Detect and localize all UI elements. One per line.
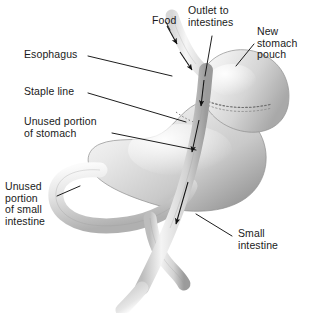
label-new-stomach-pouch: New stomach pouch — [257, 26, 297, 61]
label-unused-portion-of-stomach: Unused portion of stomach — [24, 116, 97, 139]
leader-small-intestine — [196, 214, 232, 236]
label-small-intestine: Small intestine — [238, 228, 278, 251]
diagram-canvas: Food Esophagus Outlet to intestines New … — [0, 0, 315, 313]
label-unused-portion-of-small-intestine: Unused portion of small intestine — [5, 181, 45, 227]
label-outlet-to-intestines: Outlet to intestines — [188, 5, 233, 28]
label-food: Food — [152, 15, 176, 27]
label-esophagus: Esophagus — [24, 49, 77, 61]
leader-esophagus — [88, 56, 172, 76]
label-staple-line: Staple line — [24, 86, 74, 98]
leader-staple-line — [88, 93, 186, 122]
